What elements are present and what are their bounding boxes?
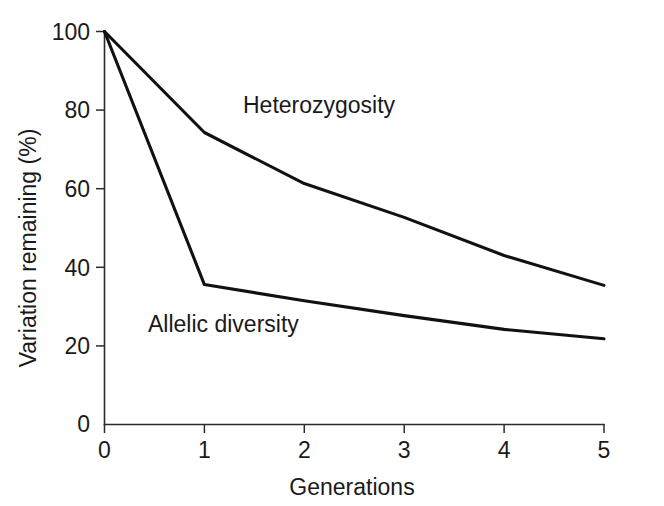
- chart-container: 100 80 60 40 20 0 0 1 2 3 4 5 Variation …: [0, 0, 664, 506]
- y-tick-label-0: 0: [77, 411, 90, 437]
- x-tick-label-4: 4: [498, 437, 511, 463]
- line-chart: 100 80 60 40 20 0 0 1 2 3 4 5 Variation …: [0, 0, 664, 506]
- y-tick-label-20: 20: [64, 333, 90, 359]
- y-tick-label-80: 80: [64, 97, 90, 123]
- y-axis-title: Variation remaining (%): [15, 129, 41, 368]
- series-label-allelic-diversity: Allelic diversity: [148, 311, 299, 337]
- chart-background: [0, 0, 664, 506]
- x-tick-label-2: 2: [298, 437, 311, 463]
- x-tick-label-0: 0: [98, 437, 111, 463]
- x-tick-label-5: 5: [598, 437, 611, 463]
- y-tick-label-60: 60: [64, 176, 90, 202]
- y-tick-label-100: 100: [52, 19, 90, 45]
- x-axis-title: Generations: [289, 474, 414, 500]
- x-tick-label-3: 3: [398, 437, 411, 463]
- x-tick-label-1: 1: [198, 437, 211, 463]
- series-label-heterozygosity: Heterozygosity: [243, 92, 396, 118]
- y-tick-label-40: 40: [64, 255, 90, 281]
